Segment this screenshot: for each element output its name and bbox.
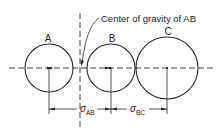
sigma-ab-label: σAB <box>80 103 95 116</box>
label-circle-a: A <box>45 33 52 44</box>
diagram-canvas: A B C Center of gravity of AB σAB σBC <box>0 0 223 134</box>
arrowhead-ab-left <box>49 108 55 111</box>
cg-annotation-label: Center of gravity of AB <box>101 13 196 24</box>
sigma-ab-subscript: AB <box>86 109 95 116</box>
label-circle-b: B <box>109 33 116 44</box>
label-circle-c: C <box>164 26 171 37</box>
arrowhead-bc-left <box>111 108 117 111</box>
sigma-bc-label: σBC <box>130 103 145 116</box>
sigma-bc-subscript: BC <box>136 109 145 116</box>
arrowhead-bc-right <box>161 108 167 111</box>
cg-leader-arrowhead <box>81 60 85 66</box>
arrowhead-ab-right <box>105 108 111 111</box>
